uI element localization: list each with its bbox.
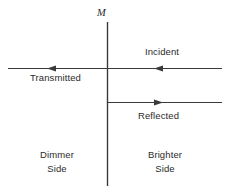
interface-label-m: M [97,7,106,18]
dimmer-side-label-line1: Dimmer [40,149,74,160]
ray-diagram: M Incident Transmitted Reflected Dimmer … [0,0,229,192]
incident-arrowhead-icon [154,65,163,71]
transmitted-arrowhead-icon [47,65,56,71]
transmitted-label: Transmitted [30,72,81,83]
reflected-arrowhead-icon [154,99,163,105]
dimmer-side-label-line2: Side [47,163,66,174]
brighter-side-label-line2: Side [155,163,174,174]
reflected-label: Reflected [138,110,179,121]
incident-label: Incident [145,46,179,57]
brighter-side-label-line1: Brighter [148,149,182,160]
diagram-canvas [0,0,229,192]
